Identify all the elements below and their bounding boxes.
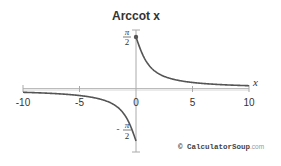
pi-symbol: π <box>125 27 130 37</box>
x-tick-label: -5 <box>75 97 84 108</box>
watermark-suffix: .com <box>250 143 264 150</box>
denominator: 2 <box>125 131 130 141</box>
closed-endpoint-dot <box>134 35 138 39</box>
minus-sign: - <box>117 124 120 134</box>
x-tick-label: 5 <box>190 97 196 108</box>
chart-title: Arccot x <box>112 9 160 23</box>
watermark-brand: CalculatorSoup <box>187 143 251 151</box>
watermark: © CalculatorSoup .com <box>178 143 264 151</box>
x-tick-label: 0 <box>133 97 139 108</box>
x-tick-label: -10 <box>16 97 31 108</box>
x-tick-label: 10 <box>243 97 255 108</box>
curve-positive-branch <box>136 37 249 86</box>
y-tick-label-pi-over-2: π 2 <box>123 27 131 47</box>
arccot-chart: Arccot x -10 -5 0 5 10 x π 2 - π 2 © <box>0 0 281 166</box>
denominator: 2 <box>125 37 130 47</box>
x-axis-label: x <box>252 76 258 88</box>
copyright-symbol: © <box>178 143 183 151</box>
